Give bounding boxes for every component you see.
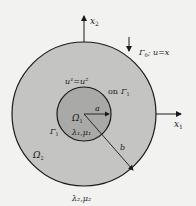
outer-boundary-label: Γ0; u=x	[138, 48, 170, 58]
elastic-inclusion-diagram: x2 x1 Γ0; u=x u¹=u² onΓ1 Γ1 a b Ω1 λ₁,μ₁…	[0, 0, 196, 206]
interface-condition: u¹=u²	[65, 77, 88, 86]
x1-axis-label: x1	[174, 119, 183, 130]
radius-b-label: b	[120, 143, 125, 152]
inner-material-params: λ₁,μ₁	[71, 128, 91, 137]
radius-a-label: a	[95, 104, 100, 113]
x2-axis-label: x2	[90, 16, 99, 27]
outer-material-params: λ₂,μ₂	[71, 194, 91, 203]
